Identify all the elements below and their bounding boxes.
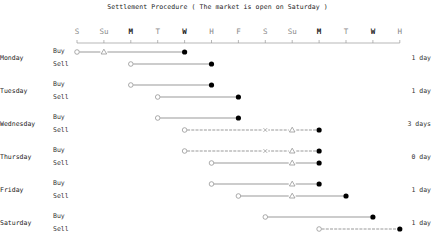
filled-circle-icon — [317, 127, 322, 132]
open-circle-icon — [155, 95, 160, 100]
open-circle-icon — [236, 194, 241, 199]
filled-circle-icon — [209, 61, 214, 66]
settlement-diagram: Settlement Procedure ( The market is ope… — [0, 0, 435, 240]
open-circle-icon — [263, 215, 268, 220]
filled-circle-icon — [317, 181, 322, 186]
open-circle-icon — [182, 149, 187, 154]
timeline-plot — [0, 0, 435, 240]
filled-circle-icon — [343, 193, 348, 198]
open-circle-icon — [209, 182, 214, 187]
filled-circle-icon — [236, 115, 241, 120]
filled-circle-icon — [236, 94, 241, 99]
open-circle-icon — [129, 83, 134, 88]
open-circle-icon — [209, 161, 214, 166]
filled-circle-icon — [370, 214, 375, 219]
filled-circle-icon — [209, 82, 214, 87]
open-circle-icon — [182, 128, 187, 133]
filled-circle-icon — [317, 148, 322, 153]
filled-circle-icon — [397, 226, 402, 231]
open-circle-icon — [155, 116, 160, 121]
open-circle-icon — [75, 50, 80, 55]
filled-circle-icon — [182, 49, 187, 54]
open-circle-icon — [129, 62, 134, 67]
open-circle-icon — [317, 227, 322, 232]
filled-circle-icon — [317, 160, 322, 165]
